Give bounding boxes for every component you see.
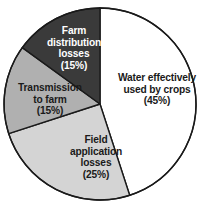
pie-chart: Water effectively used by crops (45%) Fi…: [0, 0, 214, 211]
pie-chart-svg: [0, 0, 214, 211]
pie-slices: [4, 8, 196, 200]
